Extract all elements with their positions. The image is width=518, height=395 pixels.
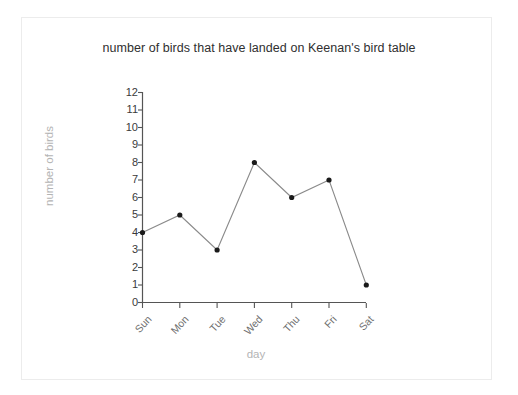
data-series-markers	[140, 160, 369, 288]
data-point-thu	[289, 195, 294, 200]
data-point-tue	[215, 247, 220, 252]
data-point-wed	[252, 160, 257, 165]
plot-area: number of birds day 12 11 10 9 8 7 6 5 4…	[0, 0, 518, 395]
data-point-sat	[364, 282, 369, 287]
data-point-sun	[140, 230, 145, 235]
x-axis-ticks	[143, 303, 367, 308]
y-axis-ticks	[138, 93, 142, 303]
data-point-mon	[177, 212, 182, 217]
chart-canvas	[0, 0, 518, 395]
data-series-line	[143, 163, 367, 286]
data-point-fri	[326, 177, 331, 182]
chart-figure: number of birds that have landed on Keen…	[0, 0, 518, 395]
